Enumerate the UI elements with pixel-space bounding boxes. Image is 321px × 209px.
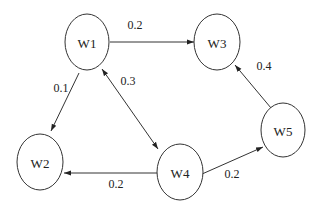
node-w2: W2 (17, 134, 63, 190)
edge-weight-w4-w5: 0.2 (225, 167, 240, 181)
node-label: W1 (78, 36, 97, 51)
node-w1: W1 (65, 14, 109, 70)
edge-weight-w1-w2: 0.1 (54, 81, 69, 95)
node-w5: W5 (261, 103, 305, 157)
edge-weight-w1-w3: 0.2 (128, 18, 143, 32)
node-w4: W4 (157, 144, 203, 200)
edge-weight-w1-w4: 0.3 (121, 74, 136, 88)
node-label: W5 (274, 124, 293, 139)
edge-weight-w4-w2: 0.2 (109, 177, 124, 191)
graph-diagram: 0.2 0.1 0.3 0.2 0.2 0.4 W1 W2 W3 W4 W5 (0, 0, 321, 209)
node-label: W4 (171, 166, 190, 181)
edge-weight-w5-w3: 0.4 (257, 59, 272, 73)
node-label: W2 (31, 156, 50, 171)
node-w3: W3 (194, 14, 240, 70)
node-label: W3 (208, 36, 227, 51)
